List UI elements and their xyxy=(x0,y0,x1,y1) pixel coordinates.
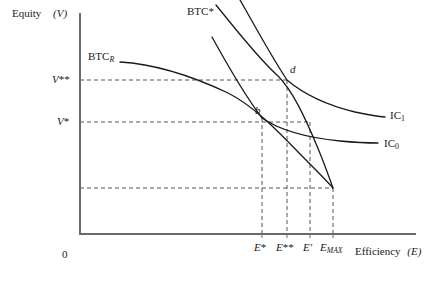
figure-canvas: Equity (V) Efficiency (E) 0 V** V* E* E*… xyxy=(0,0,437,281)
x-tick-e-star: E* xyxy=(254,242,266,253)
x-axis-title: Efficiency (E) xyxy=(355,246,421,257)
x-tick-e-double-star: E** xyxy=(276,242,294,253)
diagram-svg xyxy=(0,0,437,281)
btc-r-label: BTCR xyxy=(88,51,114,64)
ic0-curve xyxy=(212,37,378,143)
y-tick-v-star: V* xyxy=(57,116,69,127)
y-tick-v-double-star: V** xyxy=(52,74,70,85)
btc-star-label: BTC* xyxy=(187,6,214,17)
curves xyxy=(120,0,385,188)
x-axis-title-text: Efficiency xyxy=(355,245,401,257)
point-b-label: b xyxy=(255,105,261,116)
guide-lines xyxy=(80,80,333,234)
axes xyxy=(80,14,415,234)
x-tick-e-prime: E′ xyxy=(303,242,312,253)
y-axis-title-var: (V) xyxy=(53,7,67,19)
x-axis-title-var: (E) xyxy=(407,245,421,257)
origin-label: 0 xyxy=(62,249,68,260)
ic0-label: IC0 xyxy=(384,138,399,151)
y-axis-title: Equity (V) xyxy=(12,8,67,19)
ic1-label: IC1 xyxy=(390,110,405,123)
ic1-curve xyxy=(240,0,385,117)
x-tick-e-max: EMAX xyxy=(320,242,343,254)
y-axis-title-text: Equity xyxy=(12,7,41,19)
point-d-label: d xyxy=(290,64,296,75)
btc-r-curve xyxy=(120,62,333,188)
